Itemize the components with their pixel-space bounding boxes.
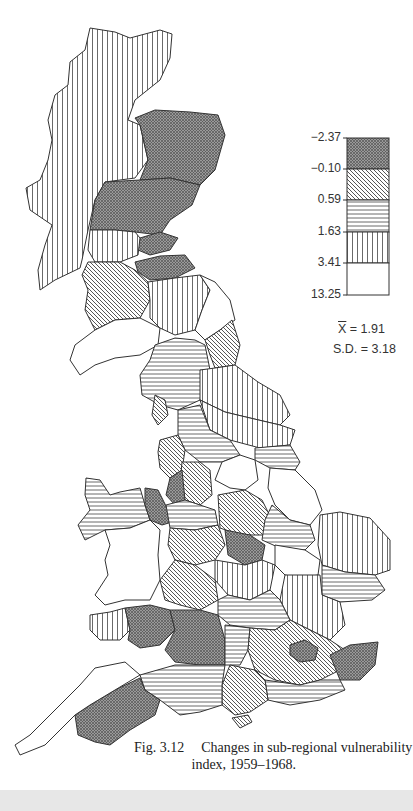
mean-stat: X = 1.91 bbox=[338, 322, 385, 336]
region-fife bbox=[138, 232, 178, 255]
mean-value: = 1.91 bbox=[346, 322, 385, 336]
legend-break-4: 1.63 bbox=[299, 224, 341, 238]
page-edge-band bbox=[0, 790, 413, 811]
region-mid-wales bbox=[95, 520, 160, 605]
region-humberside bbox=[255, 445, 300, 470]
region-south-wales-west bbox=[90, 608, 130, 640]
region-grampian bbox=[135, 110, 225, 185]
figure-number: Fig. 3.12 bbox=[134, 740, 184, 755]
region-sussex bbox=[265, 680, 345, 705]
legend-swatch-diagonal bbox=[347, 169, 389, 200]
region-central bbox=[88, 230, 140, 262]
legend-break-1: −2.37 bbox=[299, 130, 341, 144]
region-hereford bbox=[160, 560, 218, 610]
region-tayside bbox=[90, 178, 200, 235]
region-norfolk bbox=[318, 512, 390, 575]
legend-swatch-vertical bbox=[347, 232, 389, 263]
region-west-midlands bbox=[168, 525, 225, 565]
region-south-wales-east bbox=[125, 605, 175, 648]
legend-break-3: 0.59 bbox=[299, 192, 341, 206]
region-isle-of-wight bbox=[232, 715, 252, 728]
figure-caption: Fig. 3.12 Changes in sub-regional vulner… bbox=[134, 739, 412, 773]
legend-break-6: 13.25 bbox=[299, 287, 341, 301]
legend-swatch-horizontal bbox=[347, 200, 389, 232]
region-staffordshire bbox=[166, 500, 218, 530]
legend-swatch-cross bbox=[347, 138, 389, 169]
legend bbox=[343, 138, 389, 295]
region-cambridge bbox=[275, 545, 320, 578]
region-gloucester bbox=[165, 610, 225, 665]
region-berkshire bbox=[225, 625, 250, 665]
choropleth-map bbox=[0, 0, 413, 811]
legend-break-2: −0.10 bbox=[299, 161, 341, 175]
legend-break-5: 3.41 bbox=[299, 255, 341, 269]
sd-stat: S.D. = 3.18 bbox=[333, 342, 396, 356]
caption-line-1: Changes in sub-regional vulnerability bbox=[201, 740, 412, 755]
legend-swatch-blank bbox=[347, 263, 389, 295]
caption-line-2: index, 1959–1968. bbox=[192, 757, 297, 772]
